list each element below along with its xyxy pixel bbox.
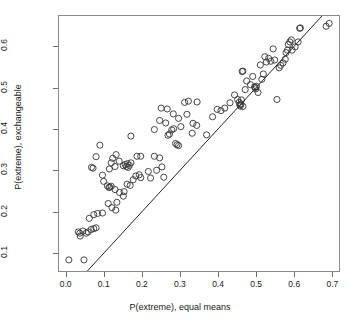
data-point xyxy=(158,105,164,111)
data-point xyxy=(138,153,144,159)
x-tick-label: 0.1 xyxy=(84,279,124,289)
x-tick-mark xyxy=(180,272,181,277)
data-point xyxy=(231,92,237,98)
data-point xyxy=(105,200,111,206)
y-tick-mark xyxy=(53,46,58,47)
plot-canvas xyxy=(59,16,339,271)
data-point xyxy=(178,124,184,130)
data-point xyxy=(274,96,280,102)
x-tick-mark xyxy=(142,272,143,277)
data-point xyxy=(66,257,72,263)
data-point xyxy=(189,130,195,136)
data-point xyxy=(242,87,248,93)
x-tick-mark xyxy=(218,272,219,277)
data-point xyxy=(184,111,190,117)
scatter-plot-figure: P(extreme), equal means P(extreme), exch… xyxy=(0,0,360,331)
data-point xyxy=(257,62,263,68)
y-tick-label: 0.4 xyxy=(0,108,9,148)
y-tick-mark xyxy=(53,129,58,130)
x-tick-mark xyxy=(294,272,295,277)
data-point xyxy=(163,120,169,126)
data-point xyxy=(270,46,276,52)
y-tick-label: 0.1 xyxy=(0,232,9,272)
data-point xyxy=(161,174,167,180)
data-point xyxy=(157,117,163,123)
data-point xyxy=(170,111,176,117)
x-tick-mark xyxy=(332,272,333,277)
y-tick-mark xyxy=(53,253,58,254)
data-point xyxy=(99,172,105,178)
data-point xyxy=(106,166,112,172)
x-tick-label: 0.6 xyxy=(274,279,314,289)
data-point xyxy=(91,212,97,218)
x-tick-label: 0.4 xyxy=(198,279,238,289)
data-point xyxy=(194,99,200,105)
data-point xyxy=(151,126,157,132)
data-point xyxy=(116,189,122,195)
x-tick-label: 0.5 xyxy=(236,279,276,289)
data-point xyxy=(101,178,107,184)
data-point xyxy=(113,152,119,158)
data-point xyxy=(147,175,153,181)
data-point xyxy=(112,163,118,169)
x-tick-label: 0.0 xyxy=(46,279,86,289)
data-point xyxy=(159,164,165,170)
y-tick-label: 0.6 xyxy=(0,25,9,65)
data-point xyxy=(194,122,200,128)
y-tick-label: 0.2 xyxy=(0,191,9,231)
data-point xyxy=(244,78,250,84)
y-axis-label: P(extreme), exchangeable xyxy=(13,57,23,217)
y-tick-mark xyxy=(53,170,58,171)
x-tick-label: 0.2 xyxy=(122,279,162,289)
y-tick-label: 0.5 xyxy=(0,67,9,107)
data-point xyxy=(272,57,278,63)
data-point xyxy=(210,114,216,120)
x-tick-label: 0.7 xyxy=(312,279,352,289)
data-point xyxy=(112,186,118,192)
data-point xyxy=(145,168,151,174)
x-tick-label: 0.3 xyxy=(160,279,200,289)
data-point xyxy=(164,106,170,112)
data-point xyxy=(171,126,177,132)
data-point xyxy=(185,98,191,104)
x-tick-mark xyxy=(66,272,67,277)
data-point xyxy=(128,133,134,139)
y-tick-mark xyxy=(53,88,58,89)
data-point xyxy=(81,257,87,263)
data-point xyxy=(214,106,220,112)
x-tick-mark xyxy=(256,272,257,277)
y-tick-label: 0.3 xyxy=(0,149,9,189)
data-point xyxy=(250,73,256,79)
data-point xyxy=(114,199,120,205)
data-point xyxy=(97,142,103,148)
data-point xyxy=(175,115,181,121)
data-point xyxy=(190,120,196,126)
data-point xyxy=(182,99,188,105)
data-point xyxy=(203,132,209,138)
data-point xyxy=(116,158,122,164)
data-point xyxy=(260,71,266,77)
data-point xyxy=(288,37,294,43)
y-tick-mark xyxy=(53,212,58,213)
data-point xyxy=(157,155,163,161)
data-point xyxy=(227,100,233,106)
data-point xyxy=(93,154,99,160)
identity-reference-line xyxy=(87,16,322,271)
plot-frame xyxy=(58,15,340,272)
x-axis-label: P(extreme), equal means xyxy=(0,302,360,312)
x-tick-mark xyxy=(104,272,105,277)
